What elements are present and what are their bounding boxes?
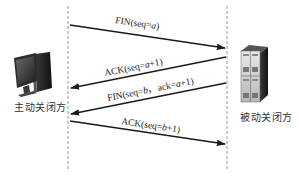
message-text-part: FIN(seq= [115,15,153,31]
label-fin-seq-b-ack-a-plus-1: FIN(seq=b，ack=a+1) [106,76,194,104]
message-text-part: +1) [180,76,195,89]
passive-closer-label: 被动关闭方 [240,109,293,124]
message-text-part: +1) [149,57,164,70]
desktop-computer-icon [14,52,52,97]
active-closer-label: 主动关闭方 [14,99,67,114]
label-fin-seq-a: FIN(seq=a) [115,15,161,32]
message-text-part: ) [155,21,160,32]
handshake-diagram: FIN(seq=a) ACK(seq=a+1) FIN(seq=b，ack=a+… [0,0,299,181]
message-text-part: ，ack= [147,79,177,94]
message-text-part: FIN(seq= [106,86,144,104]
server-tower-icon [241,45,268,102]
message-text-part: ACK(seq= [121,116,163,133]
message-text-part: +1) [166,123,181,136]
message-text-part: ACK(seq= [103,60,146,79]
